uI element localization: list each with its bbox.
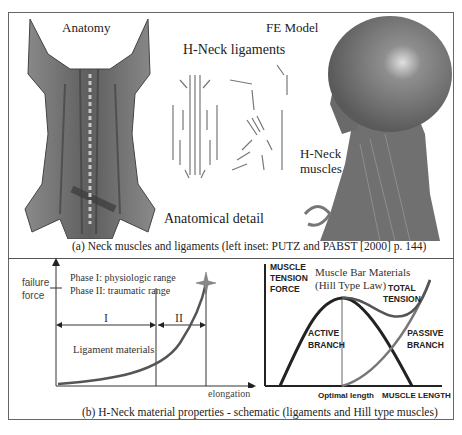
fe-ligaments-front-image [165,70,225,180]
muscle-y-label: MUSCLE TENSION FORCE [270,262,308,295]
y-label-line1: MUSCLE [270,262,308,273]
h-neck-muscles-line2: muscles [300,161,342,176]
passive-line2: BRANCH [407,339,444,351]
elongation-label: elongation [208,388,250,399]
passive-line1: PASSIVE [407,327,444,339]
phase2-label: Phase II: traumatic range [70,285,170,296]
active-line2: BRANCH [308,339,345,351]
active-line1: ACTIVE [308,327,345,339]
ligament-y-label: failure force [22,276,49,302]
y-label-line3: FORCE [270,284,308,295]
optimal-length-tick: Optimal length [318,391,374,400]
active-branch-label: ACTIVE BRANCH [308,327,345,351]
h-neck-muscles-label: H-Neck muscles [300,146,342,176]
region-i-label: I [104,311,108,326]
y-label-line2: force [22,289,49,302]
passive-branch-label: PASSIVE BRANCH [407,327,444,351]
anatomy-image [20,14,160,239]
y-label-line2: TENSION [270,273,308,284]
h-neck-ligaments-label: H-Neck ligaments [183,42,285,58]
anatomy-label: Anatomy [62,20,110,36]
region-ii-label: II [175,311,183,326]
fe-model-label: FE Model [266,20,318,36]
fe-model-image [300,14,452,241]
ligament-materials-label: Ligament materials [73,344,154,355]
total-line1: TOTAL [383,283,421,294]
title-line1: Muscle Bar Materials [315,266,410,279]
total-tension-label: TOTAL TENSION [383,283,421,305]
total-line2: TENSION [383,294,421,305]
y-label-line1: failure [22,276,49,289]
h-neck-muscles-line1: H-Neck [300,146,342,161]
phase1-label: Phase I: physiologic range [70,272,176,283]
panel-a-caption: (a) Neck muscles and ligaments (left ins… [72,240,426,252]
panel-b-caption: (b) H-Neck material properties - schemat… [82,406,438,418]
anatomical-detail-label: Anatomical detail [164,211,264,227]
muscle-length-label: MUSCLE LENGTH [382,391,451,400]
fe-ligaments-side-image [222,60,302,180]
